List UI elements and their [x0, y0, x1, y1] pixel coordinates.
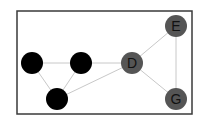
node-d: D [121, 52, 143, 74]
node-n2 [70, 52, 92, 74]
node-label: G [171, 91, 182, 107]
node-circle [21, 52, 43, 74]
node-n1 [21, 52, 43, 74]
graph-diagram: DEG [0, 0, 202, 124]
node-circle [46, 88, 68, 110]
node-g: G [165, 88, 187, 110]
node-label: D [127, 55, 137, 71]
node-n3 [46, 88, 68, 110]
node-label: E [171, 18, 180, 34]
edge-layer [32, 26, 176, 99]
node-circle [70, 52, 92, 74]
edge-n3-D [57, 63, 132, 99]
node-e: E [165, 15, 187, 37]
